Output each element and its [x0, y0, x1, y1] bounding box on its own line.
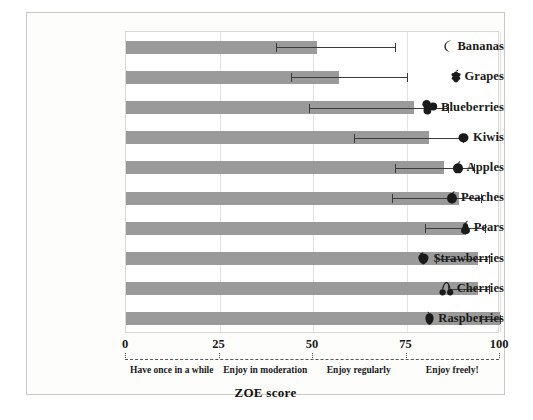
- x-tick-mark: [312, 353, 314, 358]
- y-axis-label-text: Bananas: [457, 39, 504, 53]
- raspberry-icon: [424, 311, 435, 325]
- y-axis-label-text: Raspberries: [438, 311, 504, 325]
- peach-icon: [446, 190, 458, 204]
- y-axis-label-kiwis: Kiwis: [408, 129, 504, 145]
- y-axis-label-bananas: Bananas: [408, 38, 504, 54]
- error-bar-cap-low: [291, 73, 292, 82]
- zone-label: Enjoy in moderation: [223, 365, 307, 375]
- y-axis-label-peaches: Peaches: [408, 189, 504, 205]
- y-axis-label-blueberries: Blueberries: [408, 99, 504, 115]
- y-axis-label-text: Kiwis: [473, 130, 504, 144]
- zone-divider-rule: [125, 359, 499, 360]
- y-axis-label-text: Blueberries: [441, 100, 504, 114]
- y-axis-label-text: Apples: [467, 160, 504, 174]
- x-tick-label: 75: [399, 337, 412, 352]
- error-bar-cap-high: [395, 43, 396, 52]
- x-axis-title: ZOE score: [27, 385, 504, 401]
- y-axis-label-text: Grapes: [465, 69, 505, 83]
- error-bar-cap-low: [354, 134, 355, 143]
- y-axis-label-text: Peaches: [461, 190, 504, 204]
- error-bar-line: [276, 47, 396, 48]
- error-bar-cap-low: [392, 194, 393, 203]
- y-axis-label-grapes: Grapes: [408, 68, 504, 84]
- y-axis-label-text: Cherries: [457, 281, 504, 295]
- error-bar-cap-low: [276, 43, 277, 52]
- error-bar-cap-low: [395, 164, 396, 173]
- y-axis-label-apples: Apples: [408, 159, 504, 175]
- x-tick-mark: [219, 353, 221, 358]
- x-tick-label: 50: [306, 337, 319, 352]
- x-tick-mark: [406, 353, 408, 358]
- x-tick-label: 25: [212, 337, 225, 352]
- pear-icon: [460, 220, 471, 235]
- y-axis-label-cherries: Cherries: [408, 280, 504, 296]
- y-axis-label-text: Strawberries: [433, 251, 504, 265]
- y-axis-label-strawberries: Strawberries: [408, 250, 504, 266]
- strawberry-icon: [417, 251, 430, 265]
- cherries-icon: [439, 281, 454, 296]
- kiwi-icon: [457, 131, 470, 144]
- x-tick-mark: [499, 353, 501, 358]
- y-axis-label-raspberries: Raspberries: [408, 310, 504, 326]
- y-axis-label-pears: Pears: [408, 219, 504, 235]
- error-bar-cap-low: [309, 104, 310, 113]
- blueberries-icon: [421, 99, 438, 115]
- y-axis-label-text: Pears: [474, 220, 504, 234]
- banana-icon: [441, 39, 454, 53]
- x-tick-label: 100: [490, 337, 509, 352]
- zone-label: Enjoy freely!: [426, 365, 479, 375]
- grapes-icon: [450, 69, 462, 84]
- chart-figure: BananasGrapesBlueberriesKiwisApplesPeach…: [26, 12, 505, 395]
- x-tick-label: 0: [122, 337, 128, 352]
- error-bar-line: [291, 77, 407, 78]
- zone-label: Have once in a while: [130, 365, 213, 375]
- x-tick-mark: [125, 353, 127, 358]
- apple-icon: [452, 160, 464, 174]
- zone-label: Enjoy regularly: [327, 365, 391, 375]
